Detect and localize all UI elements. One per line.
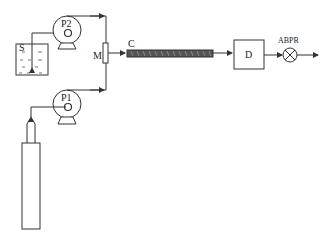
line-p1-to-m [67, 63, 106, 90]
column-label: C [128, 38, 135, 49]
pump-p2: P2 [53, 16, 81, 49]
p2-label: P2 [61, 18, 72, 29]
flow-diagram: S P2 M P1 [0, 0, 330, 245]
gas-cylinder [22, 119, 40, 229]
back-pressure-regulator: ABPR [278, 36, 300, 62]
mixer: M [93, 43, 108, 63]
reservoir-label: S [19, 42, 25, 53]
p1-label: P1 [61, 92, 72, 103]
mixer-label: M [93, 50, 102, 61]
detector-label: D [245, 49, 252, 60]
column: C [127, 38, 213, 57]
abpr-label: ABPR [278, 36, 300, 45]
detector: D [234, 40, 264, 69]
